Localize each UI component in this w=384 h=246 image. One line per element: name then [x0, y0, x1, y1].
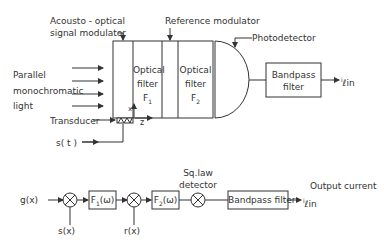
g-x-label: g(x) [20, 195, 38, 205]
bandpass-top-line1: Bandpass [266, 70, 321, 80]
f2-omega-arg: (ω) [163, 195, 178, 205]
acousto-optical-label: Acousto - optical [50, 16, 125, 26]
parallel-label: Parallel [13, 70, 46, 80]
optical-filter-f2-line1: Optical [178, 65, 213, 75]
transducer-label: Transducer [50, 116, 99, 126]
axis-x-label: x [128, 104, 132, 114]
optical-filter-f1-line2: filter [133, 79, 162, 89]
optical-filter-f1-line1: Optical [133, 65, 162, 75]
optical-filter-f2: Optical filter F2 [178, 65, 213, 107]
photodetector-shape [215, 41, 249, 118]
light-label: light [13, 101, 33, 111]
f1-subscript: 1 [148, 98, 152, 105]
reference-modulator-label: Reference modulator [165, 16, 260, 26]
optical-filter-f1: Optical filter F1 [133, 65, 162, 107]
monochromatic-label: monochromatic [13, 86, 83, 96]
s-t-label: s( t ) [56, 138, 77, 148]
f2-omega-label: F2(ω) [152, 195, 179, 209]
bandpass-filter-bottom: Bandpass filter [228, 195, 288, 205]
photodetector-label: Photodetector [252, 33, 316, 43]
sq-law-line2: detector [178, 180, 218, 190]
f1-omega-label: F1(ω) [89, 195, 116, 209]
s-x-label: s(x) [58, 226, 75, 236]
bandpass-filter-top: Bandpass filter [266, 70, 321, 92]
output-current-bottom: iℓin [303, 196, 317, 209]
output-current-top: iℓin [341, 75, 355, 88]
output-current-label: Output current [310, 181, 377, 191]
output-symbol-top: ℓin [343, 78, 355, 88]
axis-z-label: z [140, 118, 144, 128]
output-symbol-bottom: ℓin [305, 199, 317, 209]
f2-subscript: 2 [196, 98, 200, 105]
signal-modulator-label: signal modulator [50, 28, 126, 38]
optical-filter-f2-line2: filter [178, 79, 213, 89]
r-x-label: r(x) [124, 226, 140, 236]
bandpass-top-line2: filter [266, 82, 321, 92]
sq-law-detector-label: Sq.law detector [178, 168, 218, 190]
sq-law-line1: Sq.law [178, 168, 218, 178]
f1-omega-arg: (ω) [100, 195, 115, 205]
